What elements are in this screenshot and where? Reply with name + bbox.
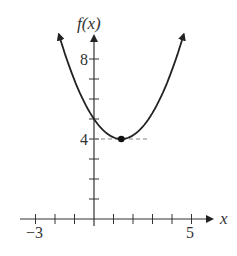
function-graph: f(x) x 8 4 −3 5 <box>0 0 237 256</box>
x-tick-label-neg3: −3 <box>26 224 43 241</box>
y-tick-label-8: 8 <box>80 51 88 68</box>
x-axis-label: x <box>219 209 228 228</box>
y-axis-label: f(x) <box>77 14 101 33</box>
vertex-point <box>118 136 125 143</box>
x-tick-label-5: 5 <box>186 224 194 241</box>
parabola-curve <box>59 35 184 140</box>
y-tick-label-4: 4 <box>80 131 88 148</box>
